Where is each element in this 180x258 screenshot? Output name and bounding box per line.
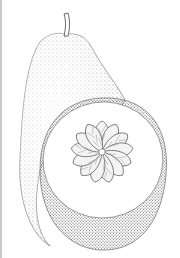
stem: [64, 13, 70, 36]
pomelo-illustration: [0, 0, 180, 258]
illustration-frame: [0, 0, 180, 258]
